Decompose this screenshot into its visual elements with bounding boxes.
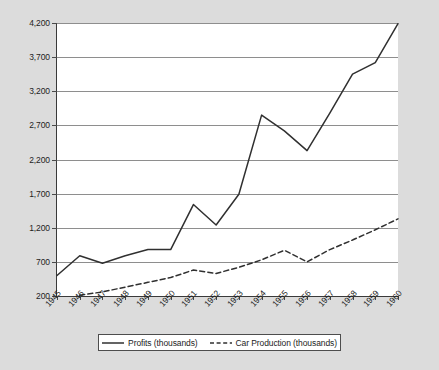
- series-lines: [57, 23, 398, 296]
- solid-line-icon: [102, 339, 124, 347]
- series-line-car-production: [80, 219, 398, 295]
- plot-area: [56, 23, 398, 297]
- y-axis-tick-label: 4,200: [29, 18, 50, 28]
- legend-label-profits: Profits (thousands): [128, 338, 197, 348]
- y-axis-tick-label: 3,700: [29, 52, 50, 62]
- dashed-line-icon: [210, 339, 232, 347]
- legend-item-profits: Profits (thousands): [102, 338, 197, 348]
- y-axis-tick-label: 1,700: [29, 189, 50, 199]
- y-axis-tick-label: 1,200: [29, 223, 50, 233]
- chart-legend: Profits (thousands) Car Production (thou…: [98, 334, 341, 351]
- legend-label-car-production: Car Production (thousands): [236, 338, 337, 348]
- y-axis-tick-label: 2,200: [29, 155, 50, 165]
- series-line-profits: [57, 24, 398, 276]
- y-axis-tick-label: 3,200: [29, 86, 50, 96]
- legend-item-car-production: Car Production (thousands): [210, 338, 337, 348]
- y-axis-tick-label: 700: [36, 257, 50, 267]
- line-chart-figure: 2007001,2001,7002,2002,7003,2003,7004,20…: [0, 0, 439, 370]
- y-axis-tick-label: 2,700: [29, 120, 50, 130]
